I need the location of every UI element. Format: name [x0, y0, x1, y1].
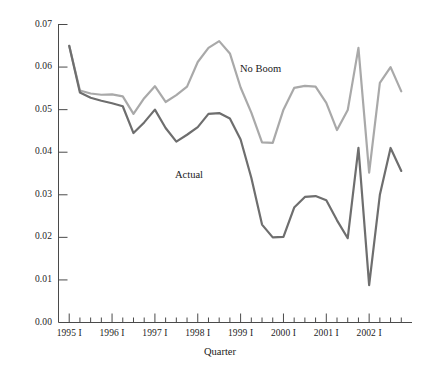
y-tick-label: 0.01	[6, 274, 52, 284]
series-label-actual: Actual	[175, 169, 203, 180]
y-tick-label: 0.00	[6, 317, 52, 327]
x-axis-title: Quarter	[175, 346, 265, 357]
y-tick-label: 0.05	[6, 104, 52, 114]
series-label-no-boom: No Boom	[240, 63, 281, 74]
y-tick-label: 0.07	[6, 19, 52, 29]
y-tick-label: 0.04	[6, 146, 52, 156]
y-tick-label: 0.03	[6, 189, 52, 199]
chart-series-lines	[69, 41, 401, 285]
x-tick-label: 2002 I	[339, 328, 399, 338]
y-axis-ticks	[59, 25, 68, 323]
chart-container: 0.000.010.020.030.040.050.060.07 1995 I1…	[0, 0, 437, 375]
y-tick-label: 0.02	[6, 231, 52, 241]
x-axis-ticks	[69, 314, 401, 323]
y-tick-label: 0.06	[6, 61, 52, 71]
chart-plot-area	[0, 0, 437, 375]
